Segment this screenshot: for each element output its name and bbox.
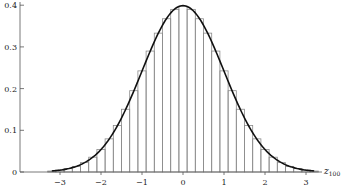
x-axis-ticks: −3−2−10123 [54, 172, 308, 187]
y-tick-label: 0 [12, 168, 17, 177]
x-tick-label: −3 [54, 178, 66, 187]
x-tick-label: −1 [136, 178, 148, 187]
histogram-bar [179, 6, 187, 172]
histogram-bar [228, 91, 236, 172]
histogram-bar [146, 51, 154, 172]
histogram-bar [236, 109, 244, 172]
y-tick-label: 0.2 [4, 85, 17, 94]
x-tick-label: −2 [95, 178, 107, 187]
x-tick-label: 3 [303, 178, 308, 187]
histogram-bar [195, 19, 203, 172]
histogram-bar [212, 51, 220, 172]
histogram-bar [171, 9, 179, 172]
x-axis-label: z100 [323, 166, 340, 177]
normal-density-curve [52, 6, 314, 171]
histogram-bar [154, 33, 162, 172]
y-axis-ticks: 00.10.20.30.4 [4, 1, 24, 177]
histogram-bar [130, 91, 138, 172]
x-axis-label-subscript: 100 [329, 170, 341, 177]
histogram-bars [48, 6, 319, 172]
x-tick-label: 2 [262, 178, 267, 187]
histogram-bar [138, 71, 146, 172]
histogram-bar [122, 109, 130, 172]
histogram-bar [204, 33, 212, 172]
histogram-bar [113, 126, 121, 172]
histogram-chart: 00.10.20.30.4 −3−2−10123 z100 [0, 0, 344, 188]
histogram-bar [245, 126, 253, 172]
y-tick-label: 0.4 [4, 1, 17, 10]
histogram-bar [187, 9, 195, 172]
y-tick-label: 0.3 [4, 43, 17, 52]
x-tick-label: 1 [221, 178, 226, 187]
y-tick-label: 0.1 [4, 126, 17, 135]
histogram-bar [163, 19, 171, 172]
histogram-bar [220, 71, 228, 172]
x-tick-label: 0 [180, 178, 185, 187]
